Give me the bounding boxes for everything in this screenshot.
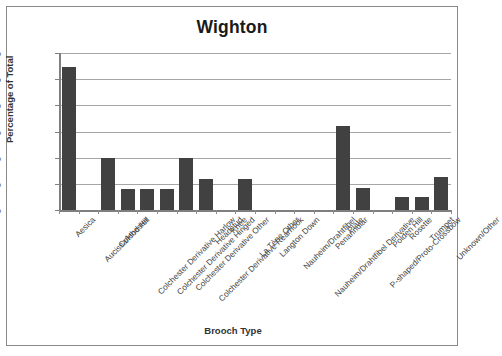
- bar: [356, 188, 370, 211]
- y-tick-label: 30%: [0, 48, 1, 58]
- plot-area: [59, 53, 451, 210]
- x-tick-mark: [79, 210, 80, 214]
- chart-title: Wighton: [7, 17, 457, 38]
- x-tick-mark: [314, 210, 315, 214]
- x-tick-mark: [98, 210, 99, 214]
- y-tick-label: 25%: [0, 74, 1, 84]
- x-tick-mark: [333, 210, 334, 214]
- y-tick-mark: [55, 105, 59, 106]
- bar: [101, 158, 115, 210]
- x-tick-mark: [412, 210, 413, 214]
- bar: [199, 179, 213, 210]
- y-tick-label: 0%: [0, 205, 1, 215]
- y-tick-label: 5%: [0, 179, 1, 189]
- bar: [160, 189, 174, 210]
- x-tick-mark: [255, 210, 256, 214]
- x-tick-mark: [353, 210, 354, 214]
- x-axis-labels: AesicaAucissa/Hod HillColchesterColchest…: [59, 216, 452, 336]
- x-tick-mark: [451, 210, 452, 214]
- x-tick-mark: [235, 210, 236, 214]
- bar: [140, 189, 154, 210]
- x-tick-mark: [275, 210, 276, 214]
- bar: [336, 126, 350, 210]
- y-tick-mark: [55, 158, 59, 159]
- x-tick-mark: [373, 210, 374, 214]
- bar: [121, 189, 135, 210]
- bar: [238, 179, 252, 210]
- x-tick-mark: [177, 210, 178, 214]
- x-tick-mark: [431, 210, 432, 214]
- x-tick-mark: [392, 210, 393, 214]
- x-axis-tick-label: Aesica: [74, 216, 97, 239]
- x-axis-title: Brooch Type: [7, 325, 459, 336]
- y-tick-label: 15%: [0, 127, 1, 137]
- bar: [415, 197, 429, 210]
- x-axis-line: [59, 210, 452, 212]
- x-tick-mark: [118, 210, 119, 214]
- bar: [62, 67, 76, 210]
- x-tick-mark: [157, 210, 158, 214]
- y-tick-mark: [55, 53, 59, 54]
- x-tick-mark: [196, 210, 197, 214]
- bar: [179, 158, 193, 210]
- x-tick-mark: [137, 210, 138, 214]
- y-tick-mark: [55, 184, 59, 185]
- y-axis-title: Percentage of Total: [4, 56, 15, 143]
- x-axis-tick-label: Unknown/Other: [456, 216, 502, 262]
- y-tick-mark: [55, 132, 59, 133]
- x-tick-mark: [59, 210, 60, 214]
- y-tick-mark: [55, 79, 59, 80]
- bar: [395, 197, 409, 210]
- bars-layer: [59, 53, 451, 210]
- bar: [434, 177, 448, 210]
- x-tick-mark: [216, 210, 217, 214]
- y-axis-line: [59, 53, 61, 211]
- y-tick-label: 20%: [0, 100, 1, 110]
- x-axis-tick-label: Colchester: [117, 216, 150, 249]
- chart-frame: Wighton Percentage of Total AesicaAuciss…: [6, 6, 458, 346]
- x-tick-mark: [294, 210, 295, 214]
- y-tick-label: 10%: [0, 153, 1, 163]
